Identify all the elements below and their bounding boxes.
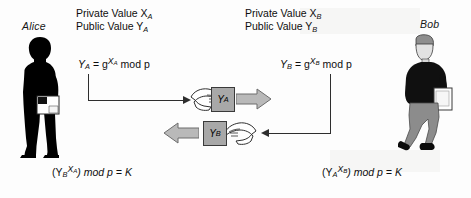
- bob-figure: [398, 33, 464, 163]
- alice-formula-lhs-sub: A: [85, 62, 90, 71]
- bob-name-label: Bob: [420, 18, 439, 31]
- alice-connector-horizontal: [88, 100, 184, 101]
- alice-connector-vertical: [88, 74, 89, 101]
- alice-private-value-text: Private Value X: [76, 7, 148, 19]
- alice-shared-secret-formula: (YBXA) mod p = K: [52, 164, 132, 180]
- alice-public-key-formula: YA = gXA mod p: [78, 56, 150, 72]
- alice-private-value: Private Value XA: [76, 7, 153, 21]
- bob-formula-exp-sub: B: [316, 59, 320, 66]
- bob-connector-arrowhead: [261, 129, 269, 137]
- bob-public-value-text: Public Value Y: [245, 20, 312, 32]
- alice-secret-open: (Y: [52, 166, 63, 178]
- packet-yb-label: Y: [209, 128, 216, 139]
- bob-connector-vertical: [330, 74, 331, 134]
- bob-formula-lhs-sub: B: [287, 62, 292, 71]
- alice-secret-close: ) mod p = K: [77, 166, 132, 178]
- alice-formula-lhs: Y: [78, 58, 85, 70]
- block-arrow-right: [236, 88, 272, 110]
- bob-formula-lhs: Y: [280, 58, 287, 70]
- bob-private-value-text: Private Value X: [245, 7, 317, 19]
- bob-secret-close: ) mod p = K: [347, 166, 402, 178]
- alice-public-value-text: Public Value Y: [76, 20, 143, 32]
- bob-shared-secret-formula: (YAXB) mod p = K: [322, 164, 402, 180]
- alice-public-value-sub: A: [143, 25, 148, 34]
- packet-ya: YA: [211, 87, 235, 112]
- bob-connector-horizontal: [268, 133, 331, 134]
- alice-name-label: Alice: [22, 20, 46, 33]
- block-arrow-left: [163, 122, 199, 144]
- hand-icon: [223, 120, 257, 146]
- alice-formula-mod: mod p: [121, 58, 150, 70]
- bob-formula-eq: = g: [295, 58, 310, 70]
- alice-figure: [14, 34, 74, 160]
- alice-private-value-sub: A: [148, 12, 153, 21]
- alice-formula-exp-sub: A: [114, 59, 118, 66]
- bob-private-value: Private Value XB: [245, 7, 322, 21]
- packet-yb: YB: [203, 121, 227, 146]
- left-block-arrow-icon: [163, 122, 199, 144]
- bob-private-value-sub: B: [317, 12, 322, 21]
- alice-silhouette-icon: [14, 34, 74, 160]
- packet-ya-label: Y: [217, 94, 224, 105]
- bob-formula-mod: mod p: [323, 58, 352, 70]
- bob-secret-open: (Y: [322, 166, 333, 178]
- alice-formula-eq: = g: [93, 58, 108, 70]
- bob-public-key-formula: YB = gXB mod p: [280, 56, 352, 72]
- packet-ya-sub: A: [224, 95, 229, 104]
- alice-public-value: Public Value YA: [76, 20, 148, 34]
- right-block-arrow-icon: [236, 88, 272, 110]
- bob-hand-figure: [223, 120, 257, 146]
- bob-public-value: Public Value YB: [245, 20, 317, 34]
- diffie-hellman-diagram: Alice Private Value XA Public Value YA Y…: [0, 0, 471, 198]
- bob-silhouette-icon: [398, 33, 464, 163]
- bob-public-value-sub: B: [312, 25, 317, 34]
- packet-yb-sub: B: [216, 129, 221, 138]
